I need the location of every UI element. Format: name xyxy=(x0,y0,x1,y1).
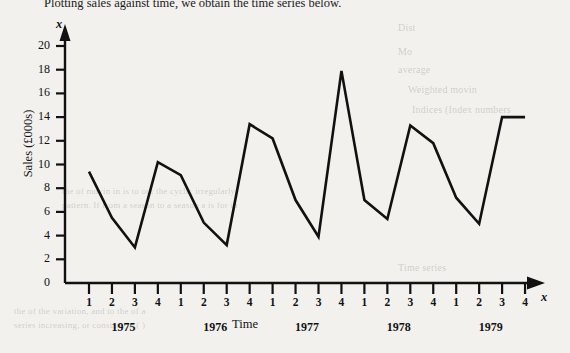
y-tick-label: 4 xyxy=(24,228,50,243)
page-root: Dist Mo average Weighted movin Indices (… xyxy=(0,0,570,353)
x-year-label: 1976 xyxy=(197,320,233,335)
x-quarter-label: 3 xyxy=(312,296,326,308)
x-quarter-label: 2 xyxy=(197,296,211,308)
y-tick-label: 16 xyxy=(24,85,50,100)
x-quarter-label: 4 xyxy=(426,296,440,308)
y-tick-label: 12 xyxy=(24,133,50,148)
y-axis-ticks xyxy=(56,46,65,259)
x-quarter-label: 1 xyxy=(449,296,463,308)
y-tick-label: 10 xyxy=(24,157,50,172)
x-quarter-label: 2 xyxy=(289,296,303,308)
x-quarter-label: 2 xyxy=(105,296,119,308)
sales-series-line xyxy=(89,71,525,248)
y-tick-label: 20 xyxy=(24,38,50,53)
x-quarter-label: 4 xyxy=(151,296,165,308)
x-quarter-label: 3 xyxy=(495,296,509,308)
x-year-label: 1977 xyxy=(289,320,325,335)
x-quarter-label: 4 xyxy=(334,296,348,308)
x-quarter-label: 1 xyxy=(357,296,371,308)
x-axis xyxy=(65,277,545,290)
x-year-label: 1975 xyxy=(105,320,141,335)
x-quarter-label: 1 xyxy=(266,296,280,308)
x-quarter-label: 4 xyxy=(243,296,257,308)
y-tick-label: 6 xyxy=(24,204,50,219)
y-tick-label: 0 xyxy=(24,275,50,290)
x-quarter-label: 2 xyxy=(472,296,486,308)
x-quarter-label: 4 xyxy=(518,296,532,308)
x-quarter-label: 2 xyxy=(380,296,394,308)
x-quarter-label: 3 xyxy=(220,296,234,308)
y-tick-label: 2 xyxy=(24,251,50,266)
y-tick-label: 8 xyxy=(24,180,50,195)
x-year-label: 1979 xyxy=(473,320,509,335)
x-quarter-label: 1 xyxy=(82,296,96,308)
y-axis xyxy=(60,24,71,283)
x-quarter-label: 3 xyxy=(403,296,417,308)
x-quarter-label: 1 xyxy=(174,296,188,308)
y-tick-label: 14 xyxy=(24,109,50,124)
x-quarter-label: 3 xyxy=(128,296,142,308)
x-axis-ticks xyxy=(89,283,525,294)
x-year-label: 1978 xyxy=(381,320,417,335)
y-tick-label: 18 xyxy=(24,62,50,77)
